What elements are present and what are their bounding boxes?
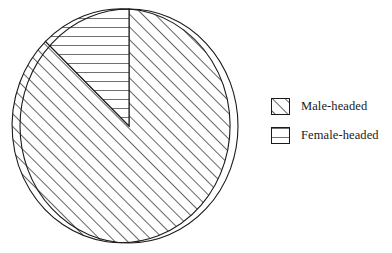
pie-chart-plot-area — [0, 0, 260, 253]
legend-item-male-headed[interactable]: Male-headed — [271, 92, 392, 121]
diagonal-hatch-swatch — [271, 98, 290, 115]
legend-item-female-headed[interactable]: Female-headed — [271, 121, 392, 150]
legend-label-female-headed: Female-headed — [301, 129, 379, 142]
pie-chart-figure: Male-headed Female-headed — [0, 0, 392, 253]
pie-chart-svg — [0, 0, 260, 253]
horizontal-lines-swatch — [271, 127, 290, 144]
legend-label-male-headed: Male-headed — [301, 100, 367, 113]
chart-legend: Male-headed Female-headed — [271, 92, 392, 150]
